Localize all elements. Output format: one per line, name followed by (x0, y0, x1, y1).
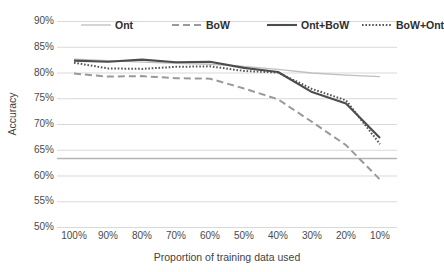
legend-label: BoW+Ont (396, 20, 444, 31)
legend-label: BoW (206, 20, 230, 31)
legend-label: Ont (115, 20, 133, 31)
chart-legend: OntBoWOnt+BoWBoW+Ont (57, 17, 397, 35)
legend-swatch-bow-ont (362, 20, 392, 30)
legend-swatch-ont (81, 20, 111, 30)
series-line-bow (74, 74, 380, 180)
legend-item-bow-ont[interactable]: BoW+Ont (362, 17, 444, 33)
x-axis-title: Proportion of training data used (57, 251, 397, 263)
legend-item-bow[interactable]: BoW (172, 17, 230, 33)
legend-item-ont[interactable]: Ont (81, 17, 133, 33)
legend-label: Ont+BoW (301, 20, 349, 31)
legend-item-ont-bow[interactable]: Ont+BoW (267, 17, 349, 33)
legend-swatch-ont-bow (267, 20, 297, 30)
legend-swatch-bow (172, 20, 202, 30)
